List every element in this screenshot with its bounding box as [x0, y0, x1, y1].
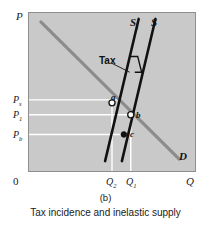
point-b-marker — [128, 112, 134, 118]
tax-label: Tax — [99, 56, 116, 66]
point-c-marker — [121, 132, 127, 138]
figure-caption: Tax incidence and inelastic supply — [0, 207, 211, 220]
supply-with-tax-label: St — [130, 17, 138, 31]
panel-label: (b) — [0, 192, 211, 204]
figure-tax-incidence-inelastic-supply: St S D Tax a b c P Q 0 Ps P1 Pb Q2 Q1 (b… — [0, 0, 211, 239]
point-a-label: a — [111, 93, 116, 102]
origin-label: 0 — [13, 176, 19, 187]
supply-curve — [122, 19, 156, 161]
tax-bracket — [131, 56, 142, 72]
supply-label: S — [151, 17, 157, 28]
point-b-label: b — [136, 111, 141, 120]
y-axis-label: P — [16, 11, 23, 22]
price-tick-p1: P1 — [13, 110, 22, 123]
price-tick-ps: Ps — [13, 95, 22, 108]
quantity-tick-q1: Q1 — [126, 177, 136, 190]
price-tick-pb: Pb — [13, 130, 22, 143]
x-axis-label: Q — [186, 176, 194, 187]
quantity-tick-q2: Q2 — [106, 177, 116, 190]
demand-label: D — [179, 151, 187, 162]
point-c-label: c — [130, 130, 134, 139]
plot-area: St S D Tax a b c — [28, 12, 196, 172]
